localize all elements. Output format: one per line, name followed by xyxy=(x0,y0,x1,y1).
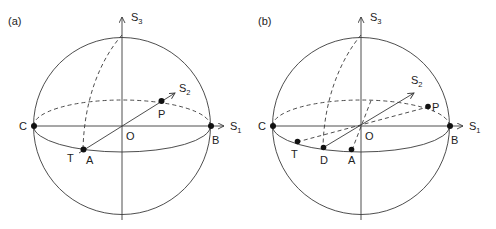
s1-label: S1 xyxy=(469,120,481,135)
label-a: A xyxy=(86,154,94,166)
panel-a: (a) S3 S1 S2 C B O P A T xyxy=(8,11,242,220)
point-b xyxy=(208,123,214,129)
point-p xyxy=(425,104,431,110)
point-a xyxy=(349,147,355,153)
meridian-dashed xyxy=(323,35,361,147)
label-o: O xyxy=(126,130,135,142)
point-t xyxy=(295,139,301,145)
label-a: A xyxy=(348,154,356,166)
point-d xyxy=(321,145,327,151)
panel-b: (b) S3 S1 S2 C B O P T D A xyxy=(258,11,481,220)
label-b: B xyxy=(451,134,458,146)
s1-label: S1 xyxy=(230,120,242,135)
s3-label: S3 xyxy=(370,11,382,26)
point-c xyxy=(31,123,37,129)
poincare-sphere-figure: (a) S3 S1 S2 C B O P A T (b) xyxy=(0,0,496,229)
point-a xyxy=(81,147,87,153)
point-p xyxy=(159,98,165,104)
label-p: P xyxy=(158,108,165,120)
s2-label: S2 xyxy=(179,82,191,97)
label-t: T xyxy=(67,152,74,164)
label-p: P xyxy=(432,101,439,113)
point-b xyxy=(447,123,453,129)
label-o: O xyxy=(365,130,374,142)
point-c xyxy=(270,123,276,129)
label-t: T xyxy=(291,148,298,160)
meridian-dashed xyxy=(83,35,122,150)
panel-a-label: (a) xyxy=(8,15,21,27)
panel-b-label: (b) xyxy=(258,15,271,27)
s3-label: S3 xyxy=(131,11,143,26)
s2-label: S2 xyxy=(411,74,423,89)
label-d: D xyxy=(320,154,328,166)
label-b: B xyxy=(212,134,219,146)
label-c: C xyxy=(19,120,27,132)
label-c: C xyxy=(258,120,266,132)
